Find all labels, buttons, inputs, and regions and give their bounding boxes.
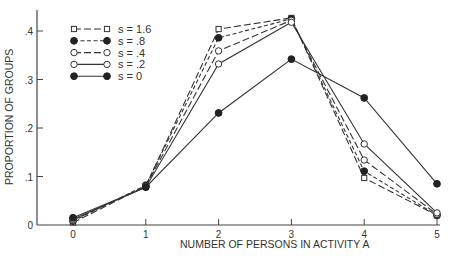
x-tick-label: 1 <box>143 229 149 240</box>
y-tick-label: 0 <box>27 220 33 231</box>
filled-circle-marker <box>434 180 441 187</box>
legend-item: s = .2 <box>71 58 145 70</box>
legend-label: s = .4 <box>118 47 145 59</box>
open-square-marker <box>104 26 109 31</box>
open-circle-marker <box>215 48 221 54</box>
legend-item: s = 0 <box>71 70 143 82</box>
open-circle-marker <box>104 61 110 67</box>
filled-circle-marker <box>361 95 368 102</box>
y-axis-title: PROPORTION OF GROUPS <box>3 49 15 185</box>
legend-item: s = .8 <box>71 35 146 47</box>
open-square-marker <box>71 26 76 31</box>
legend-label: s = .8 <box>118 35 145 47</box>
y-tick-label: .1 <box>25 172 34 183</box>
filled-circle-marker <box>142 184 149 191</box>
legend-item: s = .4 <box>71 47 145 59</box>
filled-circle-marker <box>288 56 295 63</box>
open-circle-marker <box>434 210 440 216</box>
open-circle-marker <box>215 61 221 67</box>
filled-circle-marker <box>71 73 78 80</box>
legend-item: s = 1.6 <box>71 23 151 35</box>
x-axis-title: NUMBER OF PERSONS IN ACTIVITY A <box>180 238 369 250</box>
filled-circle-marker <box>104 37 111 44</box>
open-circle-marker <box>71 49 77 55</box>
open-circle-marker <box>361 157 367 163</box>
filled-circle-marker <box>215 110 222 117</box>
legend-label: s = .2 <box>118 58 145 70</box>
y-tick-label: .3 <box>25 75 34 86</box>
open-circle-marker <box>104 49 110 55</box>
open-circle-marker <box>361 141 367 147</box>
filled-circle-marker <box>215 34 222 41</box>
open-circle-marker <box>288 19 294 25</box>
open-square-marker <box>216 26 221 31</box>
filled-circle-marker <box>71 37 78 44</box>
legend: s = 1.6s = .8s = .4s = .2s = 0 <box>71 23 152 82</box>
filled-circle-marker <box>104 73 111 80</box>
x-tick-label: 5 <box>434 229 440 240</box>
y-ticks: 0.1.2.3.4 <box>25 26 43 231</box>
legend-label: s = 1.6 <box>118 23 151 35</box>
filled-circle-marker <box>361 168 368 175</box>
x-tick-label: 0 <box>70 229 76 240</box>
line-chart: 0.1.2.3.4 012345 NUMBER OF PERSONS IN AC… <box>0 0 451 267</box>
filled-circle-marker <box>70 214 77 221</box>
open-circle-marker <box>71 61 77 67</box>
legend-label: s = 0 <box>118 70 142 82</box>
open-square-marker <box>362 175 367 180</box>
y-tick-label: .2 <box>25 123 34 134</box>
x-ticks: 012345 <box>70 219 440 240</box>
y-tick-label: .4 <box>25 26 34 37</box>
